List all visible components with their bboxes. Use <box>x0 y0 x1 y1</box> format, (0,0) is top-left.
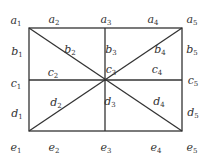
label-d1: d1 <box>11 108 23 121</box>
label-c1: c1 <box>11 78 22 91</box>
label-subscript: 4 <box>158 69 162 77</box>
label-letter: b <box>64 43 71 56</box>
label-b1: b1 <box>11 46 23 59</box>
label-subscript: 2 <box>55 19 59 27</box>
label-letter: d <box>187 106 194 119</box>
label-subscript: 1 <box>17 20 21 28</box>
label-subscript: 5 <box>193 49 197 57</box>
label-subscript: 5 <box>194 80 198 88</box>
label-a2: a2 <box>48 14 59 27</box>
label-letter: d <box>153 95 160 108</box>
label-subscript: 4 <box>154 19 158 27</box>
label-c4: c4 <box>152 64 163 77</box>
label-subscript: 3 <box>112 69 116 77</box>
label-subscript: 5 <box>193 147 197 155</box>
label-e3: e3 <box>101 142 112 155</box>
label-b5: b5 <box>186 44 198 57</box>
label-subscript: 4 <box>157 147 161 155</box>
label-c3: c3 <box>106 64 117 77</box>
label-letter: d <box>104 95 111 108</box>
label-subscript: 1 <box>17 83 21 91</box>
label-a1: a1 <box>10 15 21 28</box>
label-d4: d4 <box>153 96 165 109</box>
label-subscript: 2 <box>57 102 61 110</box>
label-subscript: 4 <box>160 101 164 109</box>
label-subscript: 3 <box>107 147 111 155</box>
label-letter: d <box>11 107 18 120</box>
label-subscript: 5 <box>193 19 197 27</box>
label-letter: b <box>105 43 112 56</box>
label-b2: b2 <box>64 44 76 57</box>
label-c5: c5 <box>188 75 199 88</box>
label-e4: e4 <box>151 142 162 155</box>
label-letter: d <box>50 96 57 109</box>
label-e2: e2 <box>49 142 60 155</box>
label-e1: e1 <box>11 142 22 155</box>
label-d2: d2 <box>50 97 62 110</box>
label-subscript: 5 <box>194 112 198 120</box>
label-e5: e5 <box>187 142 198 155</box>
label-subscript: 1 <box>18 51 22 59</box>
label-letter: b <box>186 43 193 56</box>
label-subscript: 4 <box>161 49 165 57</box>
label-subscript: 1 <box>17 147 21 155</box>
label-subscript: 1 <box>18 113 22 121</box>
label-subscript: 2 <box>55 147 59 155</box>
label-subscript: 2 <box>54 72 58 80</box>
label-c2: c2 <box>48 67 59 80</box>
label-letter: b <box>154 43 161 56</box>
label-subscript: 3 <box>107 19 111 27</box>
label-letter: b <box>11 45 18 58</box>
label-d3: d3 <box>104 96 116 109</box>
label-b4: b4 <box>154 44 166 57</box>
label-subscript: 3 <box>112 49 116 57</box>
label-a3: a3 <box>100 14 111 27</box>
label-subscript: 3 <box>111 101 115 109</box>
label-d5: d5 <box>187 107 199 120</box>
label-subscript: 2 <box>71 49 75 57</box>
label-a4: a4 <box>147 14 158 27</box>
label-b3: b3 <box>105 44 117 57</box>
diagram-canvas: a1a2a3a4a5b1b2b3b4b5c1c2c3c4c5d1d2d3d4d5… <box>0 0 212 163</box>
label-a5: a5 <box>186 14 197 27</box>
